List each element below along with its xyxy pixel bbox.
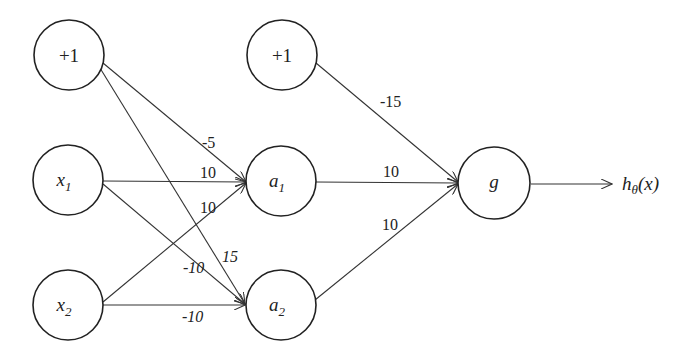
weight-x1-a2: -10 [183,259,204,276]
edge-bias1-a2 [100,68,245,304]
node-bias-input: +1 [34,20,104,90]
weight-x1-a1: 10 [200,164,216,181]
weight-bias1-a1: -5 [202,134,215,151]
output-layer: g [458,147,530,219]
edge-x1-a1 [103,181,246,182]
weight-x2-a1: 10 [200,199,216,216]
node-g: g [458,147,530,219]
edges-input-to-hidden [100,63,246,305]
node-label: g [489,171,499,192]
edge-a2-g [315,184,458,300]
output-label: hθ(x) [622,173,659,197]
weight-x2-a2: -10 [182,308,203,325]
weight-a2-g: 10 [382,216,398,233]
node-a1: a1 [246,146,316,216]
node-label: +1 [272,45,292,66]
weight-bias2-g: -15 [380,93,401,110]
edge-x2-a1 [103,183,246,302]
node-a2: a2 [246,270,316,340]
edge-a1-g [316,182,458,183]
hidden-layer: +1 a1 a2 [246,20,317,340]
weight-a1-g: 10 [383,163,399,180]
node-x1: x1 [33,145,103,215]
neural-network-diagram: -5 10 10 15 -10 -10 -15 10 10 +1 x1 x2 +… [0,0,700,359]
node-x2: x2 [33,270,103,340]
edge-bias1-a1 [103,63,246,182]
input-layer: +1 x1 x2 [33,20,104,340]
node-bias-hidden: +1 [247,20,317,90]
weight-bias1-a2: 15 [222,248,238,265]
node-label: +1 [59,45,79,66]
